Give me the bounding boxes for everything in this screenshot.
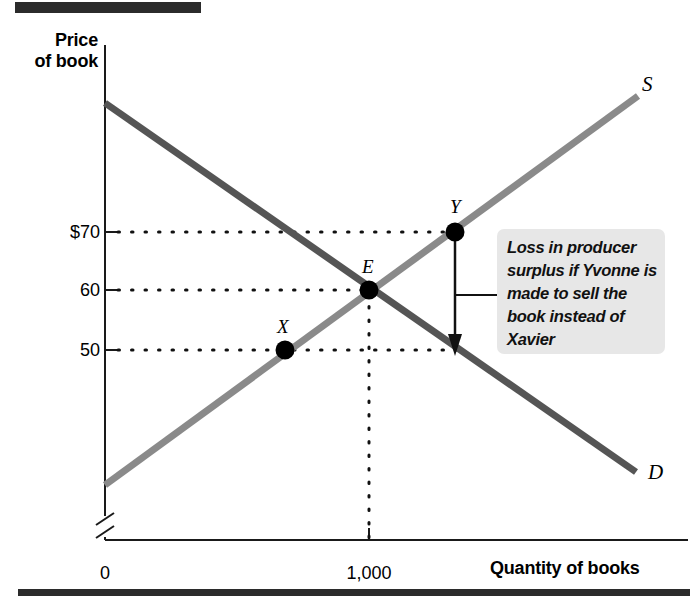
data-point-E xyxy=(360,281,379,300)
data-point-Y xyxy=(446,223,465,242)
supply-demand-figure: Price of book Quantity of books $70 60 5… xyxy=(0,0,694,608)
chart-canvas xyxy=(0,0,694,608)
axis-break-mark-lower xyxy=(96,526,114,538)
data-point-X xyxy=(276,341,295,360)
